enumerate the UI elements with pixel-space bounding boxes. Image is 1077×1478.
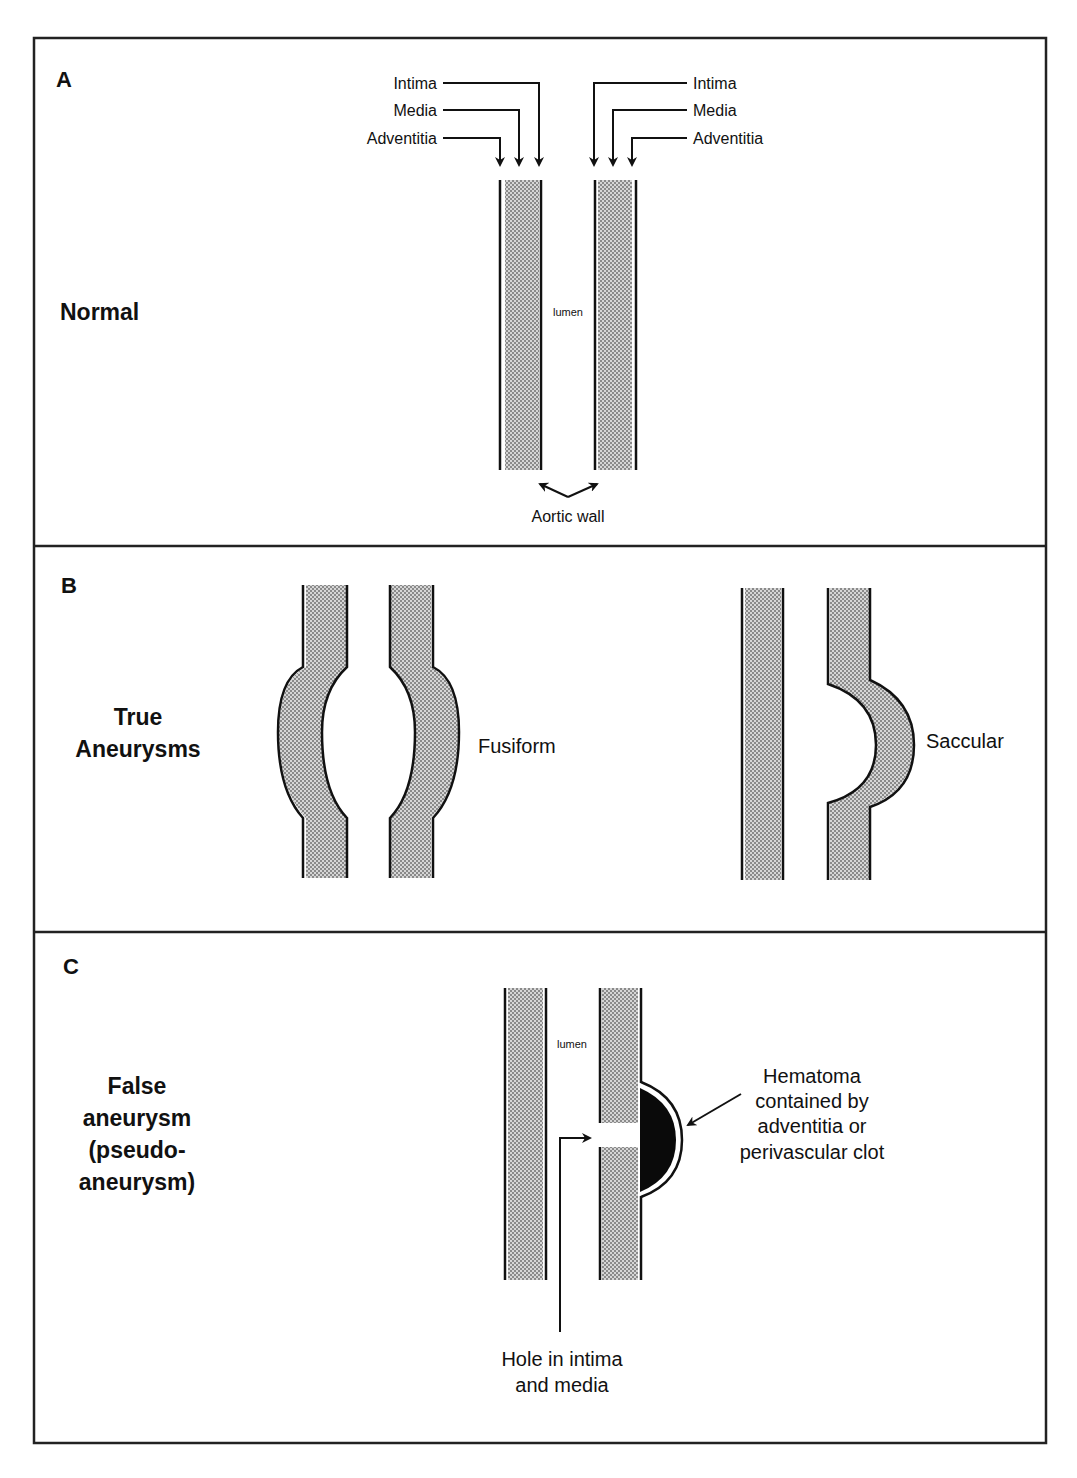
panel-title-normal: Normal <box>60 299 139 325</box>
hole-label-line2: and media <box>515 1374 609 1396</box>
arrow-aortic-wall-right <box>568 484 597 497</box>
media-layer-left <box>505 180 539 470</box>
fusiform-aneurysm <box>278 585 459 878</box>
media-layer-right <box>598 180 632 470</box>
arrow-aortic-wall-left <box>540 484 568 497</box>
aortic-wall-label: Aortic wall <box>532 508 605 525</box>
hematoma-label-line1: Hematoma <box>763 1065 862 1087</box>
fusiform-label: Fusiform <box>478 735 556 757</box>
label-media-right: Media <box>693 102 737 119</box>
arrow-intima-left <box>443 83 539 165</box>
hematoma-label-line4: perivascular clot <box>740 1141 885 1163</box>
arrow-adventitia-left <box>443 138 500 165</box>
saccular-label: Saccular <box>926 730 1004 752</box>
panel-title-false-line2: aneurysm <box>83 1105 192 1131</box>
hole-label-line1: Hole in intima <box>501 1348 623 1370</box>
arrow-hematoma <box>688 1094 741 1125</box>
aneurysm-diagram: A Normal lumen Intima Media Adventitia I… <box>0 0 1077 1478</box>
arrow-adventitia-right <box>632 138 687 165</box>
panel-letter-c: C <box>63 954 79 979</box>
media-layer-right-upper-c <box>602 988 638 1123</box>
saccular-aneurysm <box>742 588 914 880</box>
panel-b-true-aneurysms: B True Aneurysms Fusiform Saccular <box>61 573 1004 880</box>
arrow-intima-right <box>594 83 687 165</box>
media-layer-right-lower-c <box>602 1147 638 1280</box>
panel-letter-a: A <box>56 67 72 92</box>
lumen-label: lumen <box>553 306 583 318</box>
panel-letter-b: B <box>61 573 77 598</box>
panel-title-false-line3: (pseudo- <box>88 1137 185 1163</box>
panel-title-true-line1: True <box>114 704 163 730</box>
panel-title-false-line4: aneurysm) <box>79 1169 195 1195</box>
lumen-label-c: lumen <box>557 1038 587 1050</box>
panel-a-normal: A Normal lumen Intima Media Adventitia I… <box>56 67 763 525</box>
panel-c-false-aneurysm: C False aneurysm (pseudo- aneurysm) lume… <box>63 954 885 1396</box>
panel-title-true-line2: Aneurysms <box>75 736 200 762</box>
label-adventitia-right: Adventitia <box>693 130 763 147</box>
hematoma-label-line2: contained by <box>755 1090 868 1112</box>
label-intima-left: Intima <box>393 75 437 92</box>
label-intima-right: Intima <box>693 75 737 92</box>
hematoma-label-line3: adventitia or <box>758 1115 867 1137</box>
media-layer-left-c <box>508 988 543 1280</box>
label-media-left: Media <box>393 102 437 119</box>
arrow-hole <box>560 1138 590 1332</box>
label-adventitia-left: Adventitia <box>367 130 437 147</box>
panel-title-false-line1: False <box>108 1073 167 1099</box>
